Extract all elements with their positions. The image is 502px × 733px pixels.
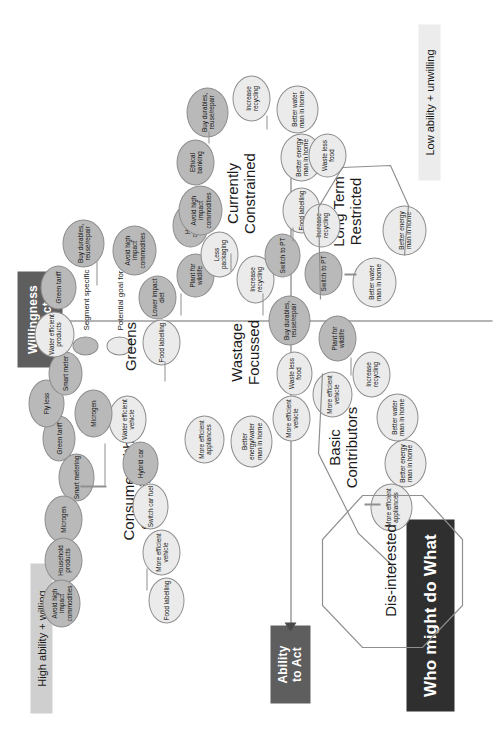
node-consumer-with-conscience-2[interactable]: Microgen (44, 495, 82, 543)
connector (104, 443, 105, 485)
node-greens-5[interactable]: Lower impact diet (138, 275, 176, 319)
axis-arrow-left (284, 622, 296, 631)
segment-title-currently-constrained: Currently Constrained (224, 127, 257, 259)
node-wastage-focussed-1[interactable]: Better energy/water man in home (230, 415, 272, 467)
node-currently-constrained-1[interactable]: Ethical banking (176, 139, 214, 185)
segment-title-dis-interested: Dis-interested (382, 507, 399, 633)
node-currently-constrained-2[interactable]: Buy durables, reuse/repair (186, 87, 228, 137)
node-consumer-with-conscience-6[interactable]: Hybrid car (122, 441, 158, 485)
long-term-restricted-outline (298, 97, 448, 317)
node-greens-2[interactable]: Green tariff (40, 265, 76, 309)
node-consumer-with-conscience-8[interactable]: More efficient vehicle (142, 529, 180, 575)
segment-title-greens: Greens (122, 291, 139, 401)
legend-label-segment-specific: Segment specific (81, 269, 90, 330)
connector (292, 227, 293, 241)
node-consumer-with-conscience-5[interactable]: Water efficient vehicle (108, 395, 146, 443)
node-consumer-with-conscience-9[interactable]: Food labelling (148, 577, 184, 623)
connector (180, 293, 181, 315)
connector (208, 131, 209, 143)
node-greens-4[interactable]: Avoid high impact commodities (112, 225, 156, 275)
diagram-canvas: Who might do What High ability + willing… (0, 0, 502, 733)
connector (80, 485, 106, 487)
node-wastage-focussed-0[interactable]: More efficient appliances (184, 415, 224, 463)
node-greens-1[interactable]: Water efficient products (34, 311, 74, 357)
connector (146, 568, 147, 590)
node-currently-constrained-0[interactable]: Avoid high impact commodities (178, 185, 222, 235)
legend-swatch-segment-specific (72, 336, 98, 355)
segment-title-wastage-focussed: Wastage Focussed (228, 293, 261, 411)
axis-label-ability: Ability to Act (270, 625, 310, 703)
connector (262, 293, 263, 315)
node-currently-constrained-3[interactable]: Increase recycling (232, 75, 270, 121)
node-consumer-with-conscience-3[interactable]: Smart metering (58, 453, 94, 501)
node-consumer-with-conscience-7[interactable]: Switch car fuel (132, 483, 168, 529)
connector (266, 115, 267, 129)
node-greens-9[interactable]: Microgen (74, 389, 112, 437)
connector (96, 261, 97, 285)
connector (164, 361, 165, 381)
node-greens-6[interactable]: Food labelling (142, 319, 180, 365)
diagram-stage: Who might do What High ability + willing… (0, 0, 502, 733)
node-currently-constrained-7[interactable]: Switch to PT (264, 233, 300, 277)
node-greens-3[interactable]: Buy durables, reuse/repair (62, 219, 104, 267)
node-consumer-with-conscience-10[interactable]: Avoid high impact commodities (42, 579, 80, 627)
node-consumer-with-conscience-1[interactable]: Household products (44, 537, 82, 583)
node-greens-0[interactable]: Smart meter (48, 351, 82, 395)
